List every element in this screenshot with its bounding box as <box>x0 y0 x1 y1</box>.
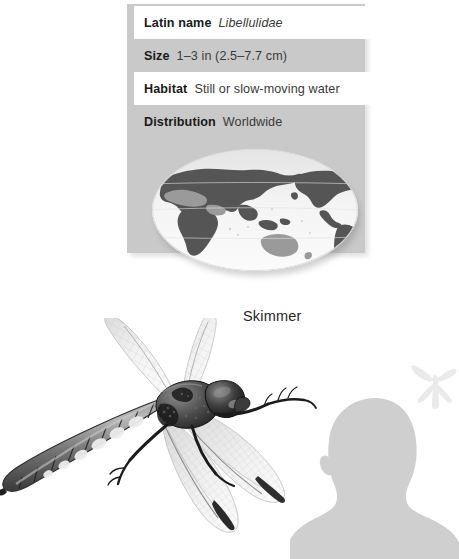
fact-value-distribution: Worldwide <box>223 115 282 129</box>
fact-label-habitat: Habitat <box>144 82 187 96</box>
fact-value-size: 1–3 in (2.5–7.7 cm) <box>177 49 287 63</box>
fact-value-latin-name: Libellulidae <box>218 16 282 30</box>
dragonfly-scale-silhouette-icon <box>408 363 459 410</box>
world-map-oval-icon <box>152 149 358 271</box>
fact-row-distribution: Distribution Worldwide <box>134 105 383 139</box>
fact-value-habitat: Still or slow-moving water <box>194 82 339 96</box>
distribution-map <box>152 149 360 276</box>
dragonfly-illustration-icon <box>0 318 326 548</box>
fact-row-habitat: Habitat Still or slow-moving water <box>134 72 383 105</box>
fact-label-size: Size <box>144 49 170 63</box>
fact-table: Latin name Libellulidae Size 1–3 in (2.5… <box>134 6 383 139</box>
fact-row-latin-name: Latin name Libellulidae <box>134 6 383 39</box>
fact-label-distribution: Distribution <box>144 115 216 129</box>
fact-label-latin-name: Latin name <box>144 16 211 30</box>
fact-row-size: Size 1–3 in (2.5–7.7 cm) <box>134 39 383 72</box>
